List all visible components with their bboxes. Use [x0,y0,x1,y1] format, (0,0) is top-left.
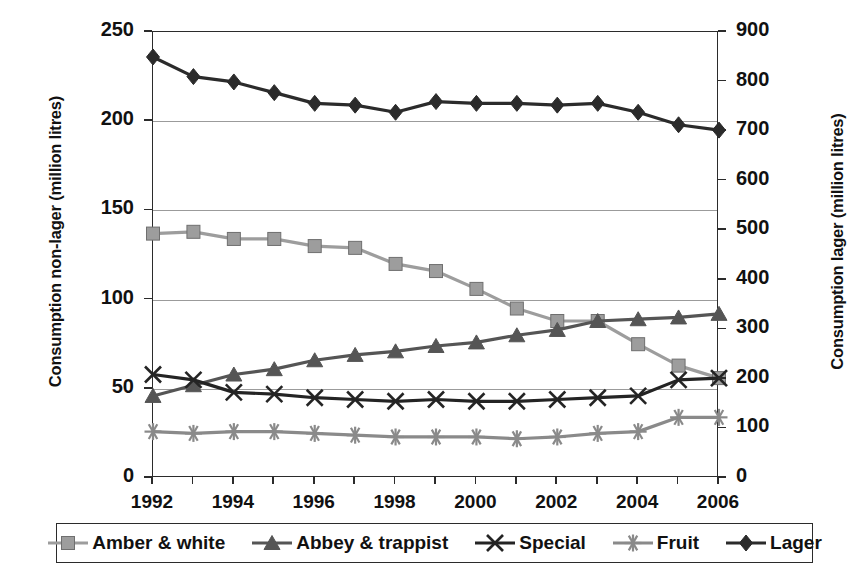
y-right-tickmark-800 [718,80,726,82]
square-marker-icon [47,532,89,554]
x-tickmark-2002 [555,477,557,484]
x-tickmark-1996 [313,477,315,484]
y-left-tick-150: 150 [74,196,134,219]
x-tick-1998: 1998 [355,491,435,513]
legend-label: Amber & white [91,532,225,554]
legend-item-abbey-trappist[interactable]: Abbey & trappist [251,532,448,554]
series-abbey-trappist [145,306,727,402]
y-right-tick-0: 0 [736,464,796,487]
x-tickmark-2003 [596,477,598,484]
x-tickmark-2005 [677,477,679,484]
y-left-tickmark-250 [144,30,152,32]
asterisk-marker-icon [612,532,654,554]
x-tick-2004: 2004 [597,491,677,513]
y-right-tick-200: 200 [736,365,796,388]
y-left-tick-200: 200 [74,107,134,130]
x-tick-1992: 1992 [112,491,192,513]
y-left-tickmark-200 [144,119,152,121]
legend-label: Lager [769,532,822,554]
x-tickmark-1994 [232,477,234,484]
y-left-tick-100: 100 [74,286,134,309]
x-tickmark-2006 [717,477,719,484]
series-amber-white [147,225,726,384]
y-right-tick-600: 600 [736,167,796,190]
x-tickmark-1998 [394,477,396,484]
legend-label: Fruit [656,532,699,554]
legend-item-amber-white[interactable]: Amber & white [47,532,225,554]
chart-container: Consumption non-lager (million litres) C… [0,0,868,585]
y-right-tickmark-400 [718,278,726,280]
y-left-tick-0: 0 [74,464,134,487]
x-tick-2006: 2006 [678,491,758,513]
y-right-tick-900: 900 [736,18,796,41]
y-right-tick-100: 100 [736,414,796,437]
x-tickmark-1993 [192,477,194,484]
y-axis-left-title: Consumption non-lager (million litres) [46,27,65,457]
y-right-tick-800: 800 [736,68,796,91]
triangle-marker-icon [251,532,293,554]
y-right-tick-700: 700 [736,117,796,140]
series-layer [153,32,719,478]
y-right-tickmark-200 [718,377,726,379]
diamond-marker-icon [725,532,767,554]
y-right-tick-400: 400 [736,266,796,289]
y-right-tick-500: 500 [736,216,796,239]
y-right-tickmark-700 [718,129,726,131]
legend-item-lager[interactable]: Lager [725,532,822,554]
x-tickmark-1992 [151,477,153,484]
chart-legend: Amber & whiteAbbey & trappistSpecialFrui… [56,523,813,563]
y-right-tickmark-0 [718,476,726,478]
x-tickmark-1995 [272,477,274,484]
x-tickmark-1997 [353,477,355,484]
y-left-tick-50: 50 [74,375,134,398]
y-right-tickmark-500 [718,228,726,230]
y-left-tick-250: 250 [74,18,134,41]
legend-item-special[interactable]: Special [474,532,586,554]
x-tickmark-2004 [636,477,638,484]
y-axis-right-title: Consumption lager (million litres) [828,27,847,457]
x-tick-1996: 1996 [274,491,354,513]
legend-label: Special [518,532,586,554]
x-tick-2002: 2002 [516,491,596,513]
cross-marker-icon [474,532,516,554]
x-tickmark-2001 [515,477,517,484]
y-right-tick-300: 300 [736,315,796,338]
y-right-tickmark-100 [718,427,726,429]
legend-item-fruit[interactable]: Fruit [612,532,699,554]
y-right-tickmark-600 [718,179,726,181]
y-right-tickmark-300 [718,328,726,330]
x-tick-2000: 2000 [435,491,515,513]
series-lager [147,49,726,138]
x-tick-1994: 1994 [193,491,273,513]
x-tickmark-2000 [475,477,477,484]
plot-area [152,31,718,477]
y-left-tickmark-150 [144,209,152,211]
y-left-tickmark-50 [144,387,152,389]
legend-label: Abbey & trappist [295,532,448,554]
series-fruit [145,409,728,447]
y-left-tickmark-100 [144,298,152,300]
x-tickmark-1999 [434,477,436,484]
y-right-tickmark-900 [718,30,726,32]
